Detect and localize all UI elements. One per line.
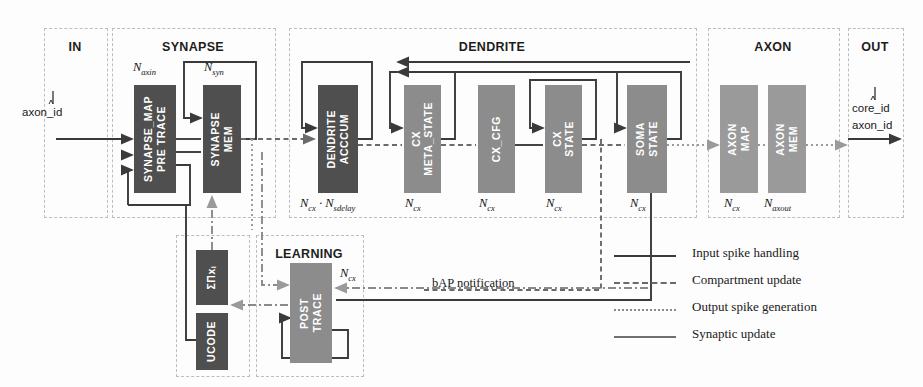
- legend-label: Synaptic update: [692, 326, 775, 342]
- block-label-line: ΣΠxᵢ: [206, 266, 217, 290]
- diagram-canvas: IN SYNAPSE DENDRITE AXON OUT LEARNING: [0, 0, 923, 387]
- block-label-line: SOMA: [635, 122, 646, 156]
- block-cx-cfg[interactable]: CX_CFG: [478, 85, 515, 193]
- block-synapse-map-pre-trace[interactable]: SYNAPSE_MAP PRE TRACE: [134, 85, 176, 193]
- block-label-line: META_STATE: [423, 102, 434, 176]
- block-label-line: UCODE: [206, 321, 217, 362]
- caption-n-cx-meta: Ncx: [405, 196, 421, 213]
- block-label-line: ACCCUM: [339, 114, 350, 164]
- block-post-trace[interactable]: POST TRACE: [290, 263, 332, 363]
- group-title-in: IN: [44, 40, 106, 54]
- block-cx-meta-state[interactable]: CX META_STATE: [404, 85, 441, 193]
- legend-row: Compartment update: [614, 270, 914, 297]
- block-label-line: AXON: [727, 123, 738, 156]
- caption-n-cx-axonmap: Ncx: [724, 196, 740, 213]
- legend: Input spike handling Compartment update …: [614, 243, 914, 351]
- block-label-line: SYNAPSE: [210, 112, 221, 166]
- group-title-axon: AXON: [708, 40, 838, 54]
- caption-n-syn: Nsyn: [204, 60, 224, 77]
- output-spike-icon: [868, 84, 882, 100]
- group-title-out: OUT: [848, 40, 902, 54]
- block-label-line: CX_CFG: [491, 116, 502, 162]
- legend-label: Output spike generation: [692, 299, 817, 315]
- block-axon-map[interactable]: AXON MAP: [720, 85, 758, 193]
- caption-n-cx-posttrace: Ncx: [340, 266, 356, 283]
- block-cx-state[interactable]: CX STATE: [545, 85, 582, 193]
- caption-ncx-nsdelay: Ncx · Nsdelay: [300, 196, 355, 213]
- block-label-line: TRACE: [312, 293, 323, 332]
- block-label-line: AXON: [775, 123, 786, 156]
- group-in: [44, 28, 108, 218]
- group-title-dendrite: DENDRITE: [289, 40, 695, 54]
- block-label-line: DENDRITE: [326, 110, 337, 168]
- bap-notification-label: bAP notification: [432, 276, 515, 291]
- block-label-line: SYNAPSE_MAP: [143, 96, 154, 182]
- block-label-line: STATE: [648, 121, 659, 157]
- block-ucode[interactable]: UCODE: [196, 313, 228, 370]
- input-axon-id-label: axon_id: [22, 106, 62, 118]
- block-label-line: POST: [299, 298, 310, 329]
- legend-row: Output spike generation: [614, 297, 914, 324]
- caption-n-cx-state: Ncx: [546, 196, 562, 213]
- caption-n-axin: Naxin: [133, 60, 156, 77]
- caption-n-cx-cfg: Ncx: [479, 196, 495, 213]
- input-spike-icon: [46, 88, 60, 104]
- output-core-id-label: core_id: [852, 102, 890, 114]
- output-axon-id-label: axon_id: [852, 119, 892, 131]
- block-dendrite-acccum[interactable]: DENDRITE ACCCUM: [318, 85, 358, 193]
- legend-swatch-synaptic-update: [614, 336, 676, 338]
- legend-swatch-output-spike-generation: [614, 309, 676, 311]
- block-label-line: CX: [411, 131, 422, 147]
- group-title-learning: LEARNING: [256, 247, 362, 261]
- legend-row: Synaptic update: [614, 324, 914, 351]
- group-title-synapse: SYNAPSE: [112, 40, 274, 54]
- block-synapse-mem[interactable]: SYNAPSE MEM: [203, 85, 241, 193]
- legend-swatch-input-spike-handling: [614, 255, 676, 257]
- block-axon-mem[interactable]: AXON MEM: [768, 85, 806, 193]
- block-sum-prod[interactable]: ΣΠxᵢ: [196, 250, 228, 305]
- block-label-line: MEM: [788, 126, 799, 152]
- legend-row: Input spike handling: [614, 243, 914, 270]
- block-label-line: CX: [552, 131, 563, 147]
- block-label-line: PRE TRACE: [156, 106, 167, 172]
- block-label-line: MEM: [223, 126, 234, 152]
- block-label-line: STATE: [564, 121, 575, 157]
- legend-label: Input spike handling: [692, 245, 799, 261]
- legend-swatch-compartment-update: [614, 282, 676, 284]
- caption-n-cx-soma: Ncx: [630, 196, 646, 213]
- caption-n-axout: Naxout: [764, 196, 791, 213]
- block-soma-state[interactable]: SOMA STATE: [627, 85, 667, 193]
- legend-label: Compartment update: [692, 272, 801, 288]
- block-label-line: MAP: [740, 126, 751, 151]
